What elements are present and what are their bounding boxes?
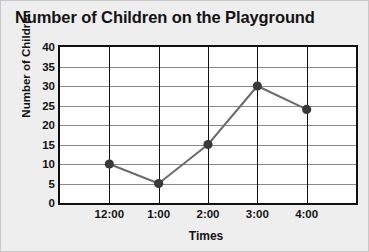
x-axis-tick-label: 2:00 [196, 208, 219, 220]
data-point-marker: 1:00: 5 [154, 179, 163, 188]
y-axis-title: Number of Children [20, 0, 32, 144]
chart-title: Number of Children on the Playground [15, 8, 315, 27]
data-point-marker: 12:00: 10 [105, 159, 114, 168]
y-axis-tick-label: 40 [42, 41, 55, 53]
line-chart-figure: Number of Children on the Playground Num… [0, 0, 369, 252]
y-axis-tick-label: 35 [42, 61, 55, 73]
plot-area: 0510152025303540 12:001:002:003:004:00 1… [58, 45, 358, 205]
x-axis-tick-label: 3:00 [246, 208, 269, 220]
y-axis-tick-label: 0 [49, 197, 55, 209]
y-axis-tick-label: 25 [42, 100, 55, 112]
x-axis-tick-label: 12:00 [95, 208, 124, 220]
x-axis-tick-label: 1:00 [147, 208, 170, 220]
data-point-marker: 3:00: 30 [253, 81, 262, 90]
y-axis-tick-label: 20 [42, 119, 55, 131]
data-line [109, 86, 306, 184]
y-axis-tick-label: 5 [49, 178, 55, 190]
x-axis-title: Times [58, 229, 354, 243]
data-point-marker: 4:00: 24 [302, 105, 311, 114]
data-point-marker: 2:00: 15 [203, 140, 212, 149]
data-series-layer: 12:00: 101:00: 52:00: 153:00: 304:00: 24 [60, 47, 356, 203]
y-axis-tick-label: 15 [42, 139, 55, 151]
x-axis-tick-label: 4:00 [295, 208, 318, 220]
y-axis-tick-label: 10 [42, 158, 55, 170]
y-axis-tick-label: 30 [42, 80, 55, 92]
